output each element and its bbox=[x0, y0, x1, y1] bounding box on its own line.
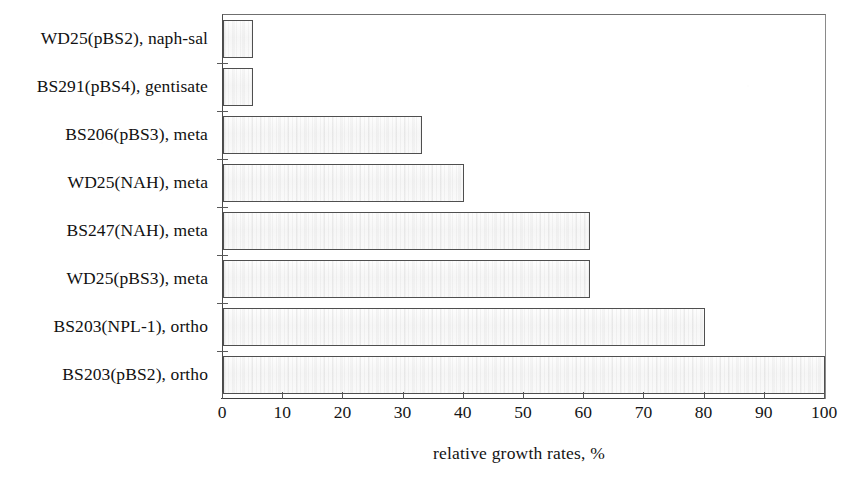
bar-chart-figure: WD25(pBS2), naph-sal BS291(pBS4), gentis… bbox=[0, 0, 850, 477]
bar-band-1 bbox=[223, 63, 825, 111]
x-axis-tick-90 bbox=[764, 392, 765, 399]
x-axis-title-text: relative growth rates, % bbox=[433, 443, 605, 463]
x-axis-tick-0 bbox=[222, 392, 223, 399]
x-axis-tick-label-90: 90 bbox=[734, 402, 794, 423]
y-axis-tick-6 bbox=[217, 303, 228, 304]
x-axis-tick-80 bbox=[704, 392, 705, 399]
bar-6 bbox=[223, 308, 705, 346]
x-axis-tick-label-100: 100 bbox=[794, 402, 850, 423]
y-axis-tick-5 bbox=[217, 255, 228, 256]
bar-4 bbox=[223, 212, 590, 250]
x-axis-tick-label-60: 60 bbox=[553, 402, 613, 423]
y-axis-label-7: BS203(pBS2), ortho bbox=[0, 350, 208, 398]
y-axis-label-4: BS247(NAH), meta bbox=[0, 206, 208, 254]
x-axis-title: relative growth rates, % bbox=[0, 443, 850, 464]
y-axis-label-6: BS203(NPL-1), ortho bbox=[0, 302, 208, 350]
y-axis-label-2: BS206(pBS3), meta bbox=[0, 110, 208, 158]
x-axis-tick-70 bbox=[643, 392, 644, 399]
x-axis-tick-20 bbox=[342, 392, 343, 399]
bar-1 bbox=[223, 68, 253, 106]
x-axis-tick-label-10: 10 bbox=[252, 402, 312, 423]
bar-2 bbox=[223, 116, 422, 154]
bar-band-4 bbox=[223, 207, 825, 255]
x-axis-tick-label-20: 20 bbox=[312, 402, 372, 423]
bar-0 bbox=[223, 20, 253, 58]
x-axis-tick-label-0: 0 bbox=[192, 402, 252, 423]
y-axis-tick-2 bbox=[217, 111, 228, 112]
bar-band-2 bbox=[223, 111, 825, 159]
bar-7 bbox=[223, 356, 825, 394]
bar-band-3 bbox=[223, 159, 825, 207]
x-axis-tick-label-70: 70 bbox=[613, 402, 673, 423]
bar-band-5 bbox=[223, 255, 825, 303]
x-axis-tick-50 bbox=[523, 392, 524, 399]
y-axis-tick-7 bbox=[217, 351, 228, 352]
y-axis-category-labels: WD25(pBS2), naph-sal BS291(pBS4), gentis… bbox=[0, 14, 208, 398]
y-axis-label-5: WD25(pBS3), meta bbox=[0, 254, 208, 302]
y-axis-tick-3 bbox=[217, 159, 228, 160]
x-axis-tick-label-80: 80 bbox=[674, 402, 734, 423]
x-axis-tick-30 bbox=[403, 392, 404, 399]
y-axis-label-1: BS291(pBS4), gentisate bbox=[0, 62, 208, 110]
plot-area bbox=[222, 14, 826, 399]
bar-band-0 bbox=[223, 15, 825, 63]
bar-3 bbox=[223, 164, 464, 202]
y-axis-tick-1 bbox=[217, 63, 228, 64]
x-axis-tick-60 bbox=[583, 392, 584, 399]
bar-band-7 bbox=[223, 351, 825, 399]
x-axis-tick-label-50: 50 bbox=[493, 402, 553, 423]
bar-band-6 bbox=[223, 303, 825, 351]
x-axis-tick-10 bbox=[282, 392, 283, 399]
y-axis-label-3: WD25(NAH), meta bbox=[0, 158, 208, 206]
y-axis-label-0: WD25(pBS2), naph-sal bbox=[0, 14, 208, 62]
bar-5 bbox=[223, 260, 590, 298]
x-axis-tick-label-40: 40 bbox=[433, 402, 493, 423]
y-axis-tick-4 bbox=[217, 207, 228, 208]
x-axis-tick-40 bbox=[463, 392, 464, 399]
x-axis-tick-100 bbox=[824, 392, 825, 399]
x-axis-tick-label-30: 30 bbox=[373, 402, 433, 423]
